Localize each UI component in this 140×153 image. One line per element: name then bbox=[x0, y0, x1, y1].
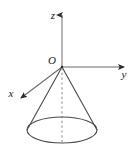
origin-point bbox=[61, 66, 63, 68]
cone-slant-left bbox=[27, 67, 62, 130]
diagram-canvas: z y x O bbox=[0, 0, 140, 153]
y-axis-label: y bbox=[121, 68, 127, 80]
x-axis-line bbox=[21, 67, 62, 98]
cone-coordinate-diagram: z y x O bbox=[0, 0, 140, 153]
x-axis-label: x bbox=[8, 87, 14, 99]
origin-label: O bbox=[48, 54, 56, 66]
cone-slant-right bbox=[62, 67, 97, 130]
z-axis-label: z bbox=[50, 9, 56, 21]
